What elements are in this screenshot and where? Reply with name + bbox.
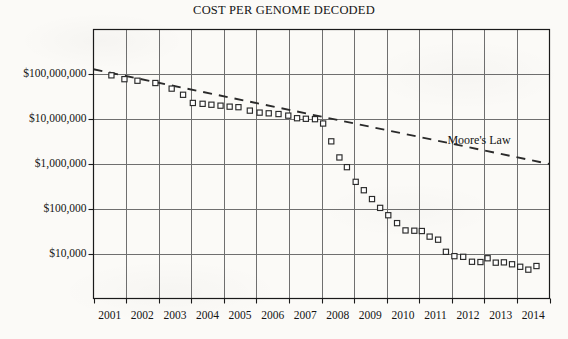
- y-axis-tick-label: $100,000: [43, 202, 86, 214]
- page-title: COST PER GENOME DECODED: [0, 3, 568, 18]
- y-axis-tick-label: $10,000,000: [29, 112, 87, 124]
- chart-page: COST PER GENOME DECODED $100,000,000$10,…: [0, 0, 568, 339]
- moores-law-line: [94, 69, 550, 164]
- data-point-markers: [109, 73, 539, 273]
- x-axis-tick-label: 2014: [507, 309, 559, 321]
- y-axis-tick-label: $10,000: [49, 247, 86, 259]
- chart-plot-area: [0, 0, 568, 339]
- y-axis-tick-label: $100,000,000: [23, 67, 86, 79]
- moores-law-annotation: Moore's Law: [447, 133, 510, 148]
- y-axis-tick-label: $1,000,000: [35, 157, 87, 169]
- horizontal-gridlines: [89, 75, 550, 255]
